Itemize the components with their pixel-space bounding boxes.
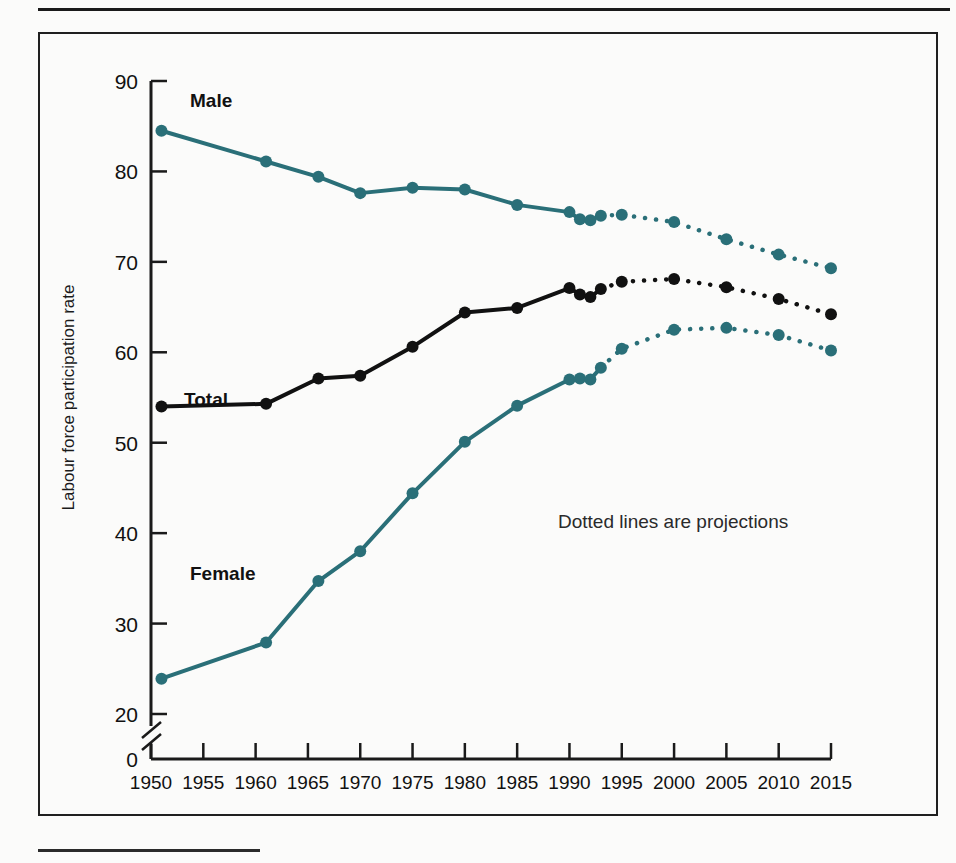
series-point <box>574 288 586 300</box>
x-tick-label: 1980 <box>444 772 486 793</box>
series-point <box>584 214 596 226</box>
series-label-male: Male <box>190 90 232 111</box>
series-point <box>773 249 785 261</box>
y-tick-label: 20 <box>115 703 138 726</box>
series-point <box>563 373 575 385</box>
series-label-total: Total <box>184 389 228 410</box>
projection-note: Dotted lines are projections <box>558 511 788 532</box>
series-point <box>459 436 471 448</box>
series-point <box>773 293 785 305</box>
series-point <box>595 362 607 374</box>
footnote-divider-rule <box>38 849 260 852</box>
x-tick-label: 1995 <box>601 772 643 793</box>
series-point <box>720 233 732 245</box>
series-point <box>720 281 732 293</box>
series-label-female: Female <box>190 563 255 584</box>
x-tick-label: 1955 <box>182 772 224 793</box>
x-tick-label: 1990 <box>548 772 590 793</box>
x-tick-label: 1965 <box>287 772 329 793</box>
series-point <box>595 283 607 295</box>
series-point <box>260 155 272 167</box>
x-tick-label: 1975 <box>391 772 433 793</box>
series-point <box>407 487 419 499</box>
y-tick-label: 60 <box>115 341 138 364</box>
series-point <box>563 206 575 218</box>
series-total <box>155 273 837 413</box>
series-point <box>312 171 324 183</box>
series-point <box>155 673 167 685</box>
series-line-observed <box>161 368 600 679</box>
series-point <box>354 187 366 199</box>
x-ticks: 1950195519601965197019751980198519901995… <box>130 743 852 793</box>
series-point <box>407 341 419 353</box>
y-axis-title: Labour force participation rate <box>59 285 78 511</box>
y-tick-label: 90 <box>115 70 138 93</box>
series-point <box>459 184 471 196</box>
series-point <box>668 216 680 228</box>
y-tick-label: 80 <box>115 160 138 183</box>
series-point <box>584 291 596 303</box>
series-point <box>459 306 471 318</box>
series-point <box>312 373 324 385</box>
series-point <box>595 210 607 222</box>
series-point <box>354 370 366 382</box>
series-point <box>312 575 324 587</box>
series-point <box>511 400 523 412</box>
x-tick-label: 2010 <box>758 772 800 793</box>
series-point <box>825 344 837 356</box>
series-line-observed <box>161 131 600 221</box>
y-tick-label: 70 <box>115 251 138 274</box>
y-tick-label: 50 <box>115 432 138 455</box>
x-tick-label: 1960 <box>234 772 276 793</box>
figure-page: 0203040506070809019501955196019651970197… <box>0 0 956 863</box>
series-point <box>574 213 586 225</box>
series-point <box>511 302 523 314</box>
line-chart: 0203040506070809019501955196019651970197… <box>38 32 938 816</box>
series-point <box>825 262 837 274</box>
series-point <box>511 199 523 211</box>
series-point <box>668 273 680 285</box>
series-point <box>155 401 167 413</box>
x-tick-label: 2000 <box>653 772 695 793</box>
x-tick-label: 2005 <box>705 772 747 793</box>
series-point <box>574 373 586 385</box>
series-point <box>616 343 628 355</box>
top-divider-rule <box>38 8 950 11</box>
series-point <box>563 282 575 294</box>
series-male <box>155 125 837 274</box>
x-tick-label: 1985 <box>496 772 538 793</box>
x-tick-label: 1950 <box>130 772 172 793</box>
series-point <box>260 637 272 649</box>
series-line-projection <box>601 328 831 368</box>
series-point <box>773 329 785 341</box>
series-line-projection <box>601 279 831 314</box>
series-point <box>407 182 419 194</box>
series-point <box>155 125 167 137</box>
series-point <box>825 308 837 320</box>
series-line-projection <box>601 215 831 268</box>
series-female <box>155 322 837 685</box>
series-point <box>720 322 732 334</box>
series-point <box>584 373 596 385</box>
series-point <box>616 209 628 221</box>
axes <box>142 81 831 759</box>
series-point <box>354 545 366 557</box>
y-tick-label: 40 <box>115 522 138 545</box>
series-point <box>668 324 680 336</box>
x-tick-label: 2015 <box>810 772 852 793</box>
x-tick-label: 1970 <box>339 772 381 793</box>
y-tick-label: 30 <box>115 613 138 636</box>
series-point <box>616 276 628 288</box>
y-ticks: 02030405060708090 <box>115 70 167 771</box>
y-tick-label: 0 <box>126 748 138 771</box>
series-point <box>260 398 272 410</box>
